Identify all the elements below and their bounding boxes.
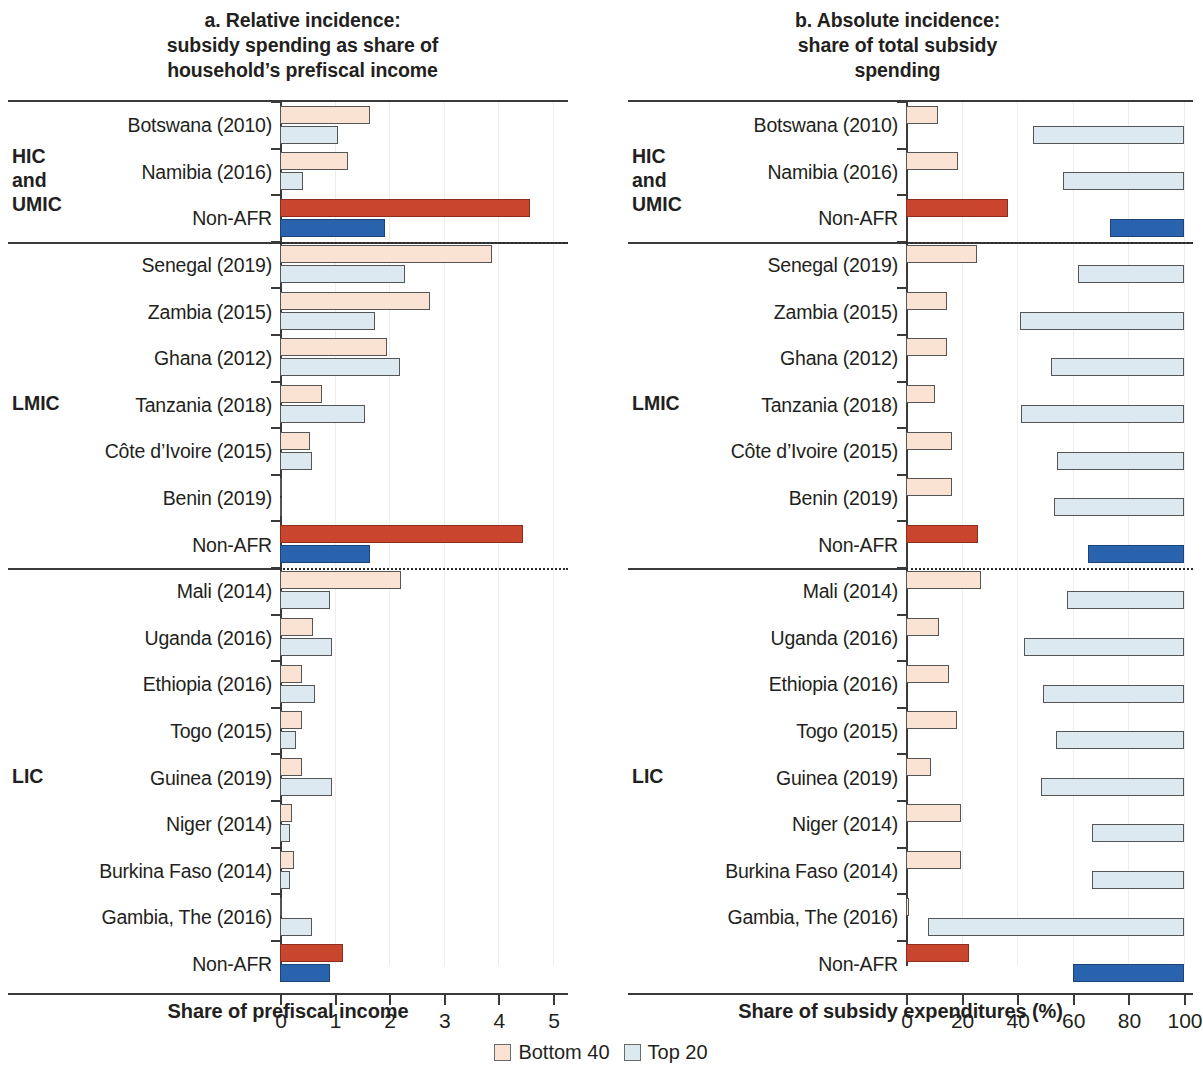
bar-bottom-40[interactable] (280, 665, 302, 683)
bar-bottom-40[interactable] (280, 152, 348, 170)
bar-top-20[interactable] (1063, 172, 1184, 190)
bar-top-20[interactable] (1057, 452, 1184, 470)
bar-top-20[interactable] (1054, 498, 1184, 516)
chart-row[interactable]: Mali (2014) (628, 568, 1193, 615)
chart-row[interactable]: Burkina Faso (2014) (628, 848, 1193, 895)
chart-row[interactable]: Guinea (2019) (628, 754, 1193, 801)
chart-row[interactable]: Non-AFR (628, 195, 1193, 242)
bar-bottom-40[interactable] (906, 245, 977, 263)
bar-bottom-40[interactable] (906, 804, 961, 822)
bar-bottom-40[interactable] (280, 944, 343, 962)
bar-bottom-40[interactable] (906, 711, 957, 729)
bar-bottom-40[interactable] (906, 385, 935, 403)
chart-row[interactable]: Côte d’Ivoire (2015) (8, 428, 568, 475)
chart-row[interactable]: Tanzania (2018) (628, 382, 1193, 429)
bar-top-20[interactable] (280, 964, 330, 982)
bar-bottom-40[interactable] (906, 152, 958, 170)
bar-bottom-40[interactable] (280, 432, 310, 450)
chart-row[interactable]: Guinea (2019) (8, 754, 568, 801)
bar-bottom-40[interactable] (906, 338, 947, 356)
bar-bottom-40[interactable] (280, 711, 302, 729)
bar-bottom-40[interactable] (280, 898, 282, 916)
bar-bottom-40[interactable] (280, 758, 302, 776)
bar-bottom-40[interactable] (906, 292, 947, 310)
bar-bottom-40[interactable] (906, 758, 931, 776)
bar-bottom-40[interactable] (906, 199, 1008, 217)
chart-row[interactable]: Uganda (2016) (8, 615, 568, 662)
chart-row[interactable]: Botswana (2010) (8, 102, 568, 149)
bar-top-20[interactable] (280, 778, 332, 796)
bar-bottom-40[interactable] (906, 525, 978, 543)
bar-bottom-40[interactable] (906, 432, 952, 450)
bar-top-20[interactable] (280, 545, 370, 563)
bar-top-20[interactable] (1092, 871, 1184, 889)
chart-row[interactable]: Zambia (2015) (628, 288, 1193, 335)
chart-row[interactable]: Ghana (2012) (628, 335, 1193, 382)
bar-top-20[interactable] (1056, 731, 1184, 749)
bar-top-20[interactable] (1041, 778, 1184, 796)
bar-top-20[interactable] (280, 172, 303, 190)
chart-row[interactable]: Senegal (2019) (8, 242, 568, 289)
chart-row[interactable]: Senegal (2019) (628, 242, 1193, 289)
chart-row[interactable]: Burkina Faso (2014) (8, 848, 568, 895)
bar-bottom-40[interactable] (280, 804, 292, 822)
chart-row[interactable]: Non-AFR (628, 941, 1193, 988)
chart-row[interactable]: Non-AFR (8, 941, 568, 988)
chart-row[interactable]: Mali (2014) (8, 568, 568, 615)
chart-row[interactable]: Côte d’Ivoire (2015) (628, 428, 1193, 475)
bar-bottom-40[interactable] (280, 292, 430, 310)
chart-row[interactable]: Uganda (2016) (628, 615, 1193, 662)
bar-top-20[interactable] (280, 452, 312, 470)
chart-row[interactable]: Zambia (2015) (8, 288, 568, 335)
bar-top-20[interactable] (280, 731, 296, 749)
bar-bottom-40[interactable] (906, 898, 909, 916)
chart-row[interactable]: Ethiopia (2016) (628, 661, 1193, 708)
bar-top-20[interactable] (280, 824, 290, 842)
chart-row[interactable]: Benin (2019) (628, 475, 1193, 522)
bar-top-20[interactable] (1021, 405, 1184, 423)
bar-bottom-40[interactable] (280, 338, 387, 356)
bar-top-20[interactable] (280, 591, 330, 609)
bar-top-20[interactable] (280, 918, 312, 936)
bar-bottom-40[interactable] (906, 106, 938, 124)
chart-row[interactable]: Gambia, The (2016) (628, 894, 1193, 941)
bar-bottom-40[interactable] (280, 478, 282, 496)
chart-row[interactable]: Ghana (2012) (8, 335, 568, 382)
chart-row[interactable]: Togo (2015) (628, 708, 1193, 755)
bar-top-20[interactable] (1092, 824, 1184, 842)
chart-row[interactable]: Namibia (2016) (8, 149, 568, 196)
chart-row[interactable]: Niger (2014) (8, 801, 568, 848)
bar-top-20[interactable] (1067, 591, 1184, 609)
bar-top-20[interactable] (1073, 964, 1184, 982)
bar-top-20[interactable] (1088, 545, 1184, 563)
bar-bottom-40[interactable] (280, 851, 294, 869)
bar-top-20[interactable] (1020, 312, 1184, 330)
chart-row[interactable]: Togo (2015) (8, 708, 568, 755)
bar-top-20[interactable] (1110, 219, 1184, 237)
chart-row[interactable]: Non-AFR (8, 521, 568, 568)
chart-row[interactable]: Botswana (2010) (628, 102, 1193, 149)
bar-bottom-40[interactable] (280, 245, 492, 263)
chart-row[interactable]: Namibia (2016) (628, 149, 1193, 196)
bar-bottom-40[interactable] (906, 851, 961, 869)
bar-top-20[interactable] (280, 126, 338, 144)
chart-row[interactable]: Non-AFR (8, 195, 568, 242)
bar-bottom-40[interactable] (906, 665, 949, 683)
bar-top-20[interactable] (280, 358, 400, 376)
chart-row[interactable]: Benin (2019) (8, 475, 568, 522)
bar-bottom-40[interactable] (906, 571, 981, 589)
chart-row[interactable]: Ethiopia (2016) (8, 661, 568, 708)
bar-top-20[interactable] (280, 871, 290, 889)
bar-bottom-40[interactable] (280, 525, 523, 543)
bar-bottom-40[interactable] (280, 106, 370, 124)
bar-bottom-40[interactable] (280, 618, 313, 636)
chart-row[interactable]: Tanzania (2018) (8, 382, 568, 429)
bar-bottom-40[interactable] (280, 571, 401, 589)
bar-top-20[interactable] (280, 312, 375, 330)
bar-top-20[interactable] (1043, 685, 1184, 703)
bar-top-20[interactable] (1024, 638, 1184, 656)
bar-top-20[interactable] (1078, 265, 1184, 283)
bar-top-20[interactable] (280, 685, 315, 703)
bar-bottom-40[interactable] (906, 478, 952, 496)
bar-top-20[interactable] (280, 498, 282, 516)
